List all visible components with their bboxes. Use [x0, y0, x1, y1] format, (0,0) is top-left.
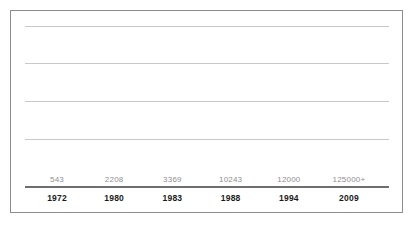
bar-chart-figure: 543220833691024312000125000+ 19721980198…: [0, 0, 417, 228]
bar-value-label-1988: 10243: [219, 175, 242, 185]
bar-value-label-1994: 12000: [277, 175, 300, 185]
x-tick-label-2009: 2009: [339, 192, 359, 204]
x-axis-baseline: [25, 186, 389, 188]
bar-value-label-1980: 2208: [105, 175, 124, 185]
x-tick-label-1988: 1988: [221, 192, 241, 204]
x-axis-tick-labels: 197219801983198819942009: [25, 190, 389, 204]
bar-group-1980[interactable]: 2208: [94, 175, 134, 186]
bar-group-1988[interactable]: 10243: [211, 175, 251, 186]
bar-group-1983[interactable]: 3369: [152, 175, 192, 186]
bar-group-2009[interactable]: 125000+: [329, 175, 369, 186]
x-tick-label-1994: 1994: [279, 192, 299, 204]
bar-group-1994[interactable]: 12000: [269, 175, 309, 186]
bars-layer: 543220833691024312000125000+: [25, 26, 389, 186]
bar-value-label-2009: 125000+: [333, 175, 366, 185]
bar-value-label-1983: 3369: [163, 175, 182, 185]
chart-frame-border: 543220833691024312000125000+ 19721980198…: [10, 10, 403, 213]
x-tick-label-1980: 1980: [104, 192, 124, 204]
bar-value-label-1972: 543: [50, 175, 64, 185]
x-tick-label-1972: 1972: [47, 192, 67, 204]
bar-group-1972[interactable]: 543: [37, 175, 77, 186]
plot-area: 543220833691024312000125000+ 19721980198…: [25, 15, 389, 210]
x-tick-label-1983: 1983: [163, 192, 183, 204]
